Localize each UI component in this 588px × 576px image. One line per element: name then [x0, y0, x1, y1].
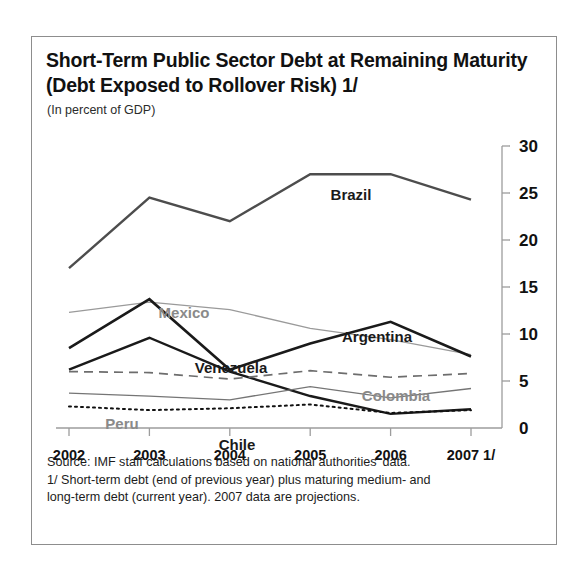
y-tick-label: 0 — [519, 419, 528, 438]
y-tick-label: 5 — [519, 372, 528, 391]
y-tick-label: 15 — [519, 278, 538, 297]
series-label-argentina: Argentina — [342, 328, 413, 345]
footnote-note-1b: long-term debt (current year). 2007 data… — [47, 489, 547, 507]
series-line-brazil — [69, 174, 471, 268]
series-line-chile — [69, 405, 471, 413]
y-tick-label: 10 — [519, 325, 538, 344]
series-label-colombia: Colombia — [362, 387, 431, 404]
y-tick-label: 25 — [519, 184, 538, 203]
series-label-mexico: Mexico — [159, 304, 210, 321]
y-tick-label: 30 — [519, 137, 538, 156]
series-line-colombia — [69, 371, 471, 379]
y-tick-label: 20 — [519, 231, 538, 250]
figure-frame: Short-Term Public Sector Debt at Remaini… — [31, 36, 557, 545]
series-label-peru: Peru — [105, 415, 138, 432]
series-label-venezuela: Venezuela — [195, 359, 268, 376]
series-label-brazil: Brazil — [331, 186, 372, 203]
footnote-note-1a: 1/ Short-term debt (end of previous year… — [47, 472, 547, 490]
footnote-block: Source: IMF staff calculations based on … — [47, 454, 547, 507]
chart-series — [69, 174, 471, 414]
footnote-source: Source: IMF staff calculations based on … — [47, 454, 547, 472]
